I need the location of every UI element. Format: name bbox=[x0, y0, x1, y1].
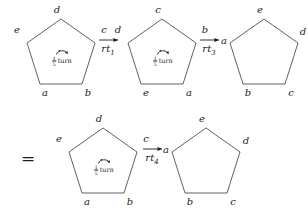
counterclockwise-turn-arrow-icon bbox=[156, 48, 171, 56]
pentagon-2-vertex-a: a bbox=[186, 88, 192, 98]
operator-rt1-subscript: 1 bbox=[110, 49, 114, 57]
pentagon-1-turn-label: 1 5 turn bbox=[52, 48, 72, 67]
pentagon-5-vertex-d: d bbox=[243, 136, 249, 146]
diagram-canvas: = d c b a e 1 5 turn rt1 c b a e d bbox=[0, 0, 308, 219]
pentagon-2-turn-text: 1 5 turn bbox=[153, 56, 173, 67]
pentagon-3-vertex-b: b bbox=[245, 88, 251, 98]
counterclockwise-turn-arrow-icon bbox=[97, 157, 112, 165]
operator-rt4-text: rt bbox=[145, 152, 154, 163]
operator-rt3: rt3 bbox=[202, 44, 215, 58]
pentagon-5-vertex-a: a bbox=[163, 145, 169, 155]
pentagon-4-vertex-b: b bbox=[127, 197, 133, 207]
pentagon-1-vertex-b: b bbox=[85, 88, 91, 98]
pentagon-4-vertex-c: c bbox=[143, 134, 149, 144]
pentagon-1-vertex-e: e bbox=[14, 25, 20, 35]
pentagon-3-outline bbox=[230, 19, 298, 84]
arrow-rt1 bbox=[99, 38, 118, 42]
pentagon-5-outline bbox=[172, 128, 240, 193]
pentagon-1-turn-text: 1 5 turn bbox=[52, 56, 72, 67]
pentagon-1-vertex-c: c bbox=[101, 25, 107, 35]
pentagon-5-vertex-e: e bbox=[199, 114, 205, 124]
pentagon-1-vertex-d: d bbox=[54, 5, 60, 15]
pentagon-2-vertex-e: e bbox=[143, 88, 149, 98]
operator-rt4: rt4 bbox=[145, 153, 158, 167]
pentagon-5-vertex-c: c bbox=[230, 197, 236, 207]
pentagon-5-vertex-b: b bbox=[187, 197, 193, 207]
pentagon-shapes-layer bbox=[0, 0, 308, 219]
pentagon-1-turn-word: turn bbox=[58, 58, 72, 65]
operator-rt3-text: rt bbox=[202, 43, 211, 54]
operator-rt3-subscript: 3 bbox=[211, 49, 215, 57]
pentagon-2-vertex-d: d bbox=[115, 25, 121, 35]
pentagon-2-turn-word: turn bbox=[159, 58, 173, 65]
pentagon-4-turn-word: turn bbox=[100, 167, 114, 174]
pentagon-3-vertex-d: d bbox=[300, 27, 306, 37]
pentagon-4-turn-label: 1 5 turn bbox=[94, 157, 114, 176]
pentagon-2-vertex-b: b bbox=[202, 25, 208, 35]
pentagon-3-vertex-c: c bbox=[288, 88, 294, 98]
pentagon-3-vertex-e: e bbox=[257, 5, 263, 15]
equals-sign: = bbox=[21, 150, 35, 167]
pentagon-2-turn-label: 1 5 turn bbox=[153, 48, 173, 67]
pentagon-2-turn-fraction: 1 5 bbox=[153, 56, 157, 67]
counterclockwise-turn-arrow-icon bbox=[55, 48, 70, 56]
pentagon-3-vertex-a: a bbox=[221, 36, 227, 46]
operator-rt1-text: rt bbox=[101, 43, 110, 54]
arrow-rt3 bbox=[200, 38, 219, 42]
pentagon-2-vertex-c: c bbox=[155, 5, 161, 15]
arrow-rt4 bbox=[143, 147, 162, 151]
pentagon-1-vertex-a: a bbox=[42, 88, 48, 98]
pentagon-4-turn-fraction: 1 5 bbox=[94, 165, 98, 176]
pentagon-4-vertex-a: a bbox=[84, 197, 90, 207]
operator-rt1: rt1 bbox=[101, 44, 114, 58]
pentagon-1-turn-fraction: 1 5 bbox=[52, 56, 56, 67]
pentagon-4-turn-text: 1 5 turn bbox=[94, 165, 114, 176]
pentagon-4-vertex-e: e bbox=[56, 134, 62, 144]
pentagon-4-vertex-d: d bbox=[96, 114, 102, 124]
operator-rt4-subscript: 4 bbox=[154, 158, 158, 166]
